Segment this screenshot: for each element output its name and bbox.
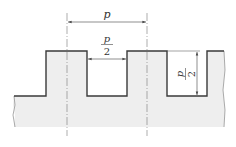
pitch-label: p xyxy=(103,8,110,21)
slot-width-numerator: p xyxy=(104,33,111,44)
tooth-profile-diagram: p p 2 p 2 xyxy=(0,0,236,147)
profile-fill xyxy=(13,51,225,127)
slot-width-denominator: 2 xyxy=(104,46,110,57)
tooth-height-numerator: p xyxy=(174,70,185,77)
tooth-height-denominator: 2 xyxy=(186,71,197,77)
